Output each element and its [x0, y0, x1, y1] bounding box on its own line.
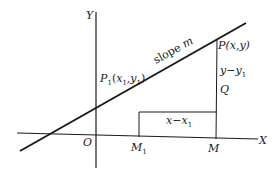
p1-label: P1(x1,y1) [99, 72, 145, 87]
y-axis-label: Y [86, 9, 95, 22]
slope-line [20, 23, 246, 151]
m-vertical [216, 40, 217, 139]
p-label: P(x,y) [217, 39, 250, 52]
run-label: x−x1 [166, 114, 192, 129]
x-axis [17, 133, 258, 139]
rise-label: y−y1 [219, 64, 246, 79]
q-label: Q [220, 83, 229, 96]
origin-label: O [83, 136, 92, 149]
x-axis-label: X [258, 134, 268, 147]
point-slope-diagram: Y X O M1 M P1(x1,y1) slope m P(x,y) y−y1… [0, 0, 278, 177]
m-label: M [207, 142, 220, 155]
m1-label: M1 [130, 141, 147, 156]
slope-label: slope m [151, 34, 195, 66]
